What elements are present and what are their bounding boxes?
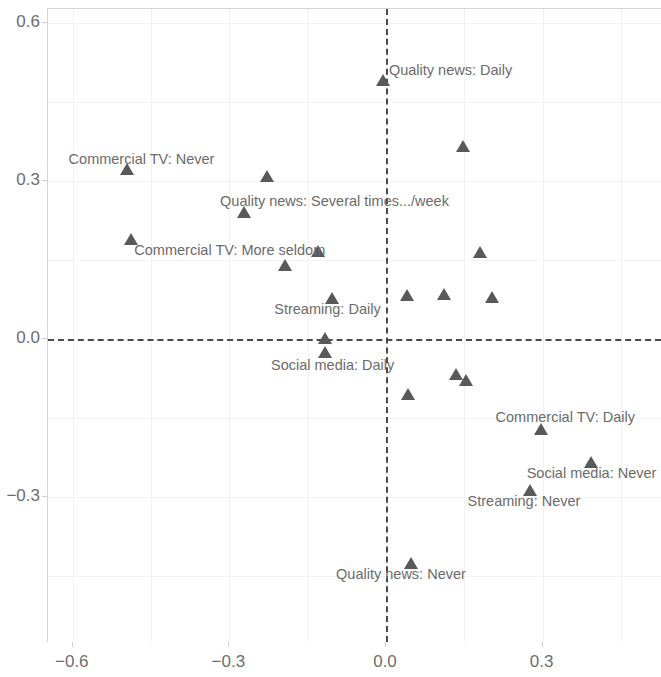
grid-line-horizontal — [48, 181, 661, 182]
data-point-marker[interactable] — [401, 388, 415, 400]
x-axis-tick-mark — [72, 642, 73, 647]
data-point-label: Social media: Daily — [271, 357, 394, 373]
data-point-label: Commercial TV: Never — [69, 151, 215, 167]
data-point-label: Streaming: Never — [468, 493, 581, 509]
data-point-marker[interactable] — [376, 74, 390, 86]
x-axis-tick-label: −0.3 — [188, 652, 268, 672]
x-axis-tick-label: 0.3 — [502, 652, 582, 672]
grid-line-vertical — [308, 9, 309, 642]
x-axis-tick-mark — [228, 642, 229, 647]
y-axis-tick-mark — [42, 180, 47, 181]
grid-line-horizontal — [48, 260, 661, 261]
grid-line-horizontal — [48, 23, 661, 24]
data-point-marker[interactable] — [400, 289, 414, 301]
grid-line-vertical — [543, 9, 544, 642]
grid-line-vertical — [464, 9, 465, 642]
y-axis-tick-label: 0.0 — [0, 328, 40, 348]
plot-panel — [47, 8, 661, 642]
grid-line-vertical — [621, 9, 622, 642]
data-point-label: Quality news: Never — [336, 566, 466, 582]
data-point-label: Quality news: Daily — [389, 62, 512, 78]
scatter-plot-figure: 0.60.30.0−0.3−0.6−0.30.00.3Commercial TV… — [0, 0, 661, 677]
data-point-marker[interactable] — [318, 332, 332, 344]
data-point-label: Quality news: Several times.../week — [220, 193, 449, 209]
y-axis-tick-label: 0.6 — [0, 12, 40, 32]
data-point-marker[interactable] — [437, 288, 451, 300]
grid-line-horizontal — [48, 339, 661, 340]
data-point-marker[interactable] — [473, 246, 487, 258]
x-axis-tick-mark — [542, 642, 543, 647]
x-axis-tick-label: −0.6 — [32, 652, 112, 672]
data-point-marker[interactable] — [459, 374, 473, 386]
x-axis-tick-mark — [385, 642, 386, 647]
y-axis-tick-mark — [42, 22, 47, 23]
grid-line-horizontal — [48, 102, 661, 103]
x-axis-tick-label: 0.0 — [345, 652, 425, 672]
data-point-label: Streaming: Daily — [274, 301, 380, 317]
data-point-marker[interactable] — [456, 140, 470, 152]
y-axis-tick-label: 0.3 — [0, 170, 40, 190]
data-point-marker[interactable] — [485, 291, 499, 303]
grid-line-vertical — [386, 9, 387, 642]
y-axis-tick-mark — [42, 496, 47, 497]
data-point-label: Commercial TV: Daily — [496, 409, 635, 425]
data-point-label: Social media: Never — [527, 465, 657, 481]
grid-line-vertical — [73, 9, 74, 642]
grid-line-vertical — [151, 9, 152, 642]
data-point-marker[interactable] — [260, 170, 274, 182]
data-point-label: Commercial TV: More seldom — [134, 242, 325, 258]
y-axis-tick-label: −0.3 — [0, 486, 40, 506]
grid-line-vertical — [229, 9, 230, 642]
y-axis-tick-mark — [42, 338, 47, 339]
data-point-marker[interactable] — [278, 259, 292, 271]
